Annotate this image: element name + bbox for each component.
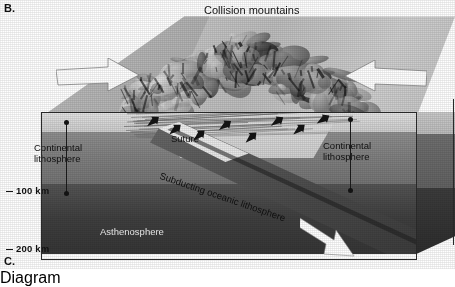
label-continental-lithosphere-right-line1: Continental [323,140,371,151]
label-asthenosphere: Asthenosphere [100,226,164,237]
block-edge-left [41,113,42,260]
block-edge-bottom [41,259,417,260]
label-suture: Suture [171,133,199,144]
measure-cap-top [348,117,353,122]
panel-label-b: B. [4,2,15,14]
plate-convergence-arrow-left [56,58,140,96]
plate-convergence-arrow-right [345,60,427,98]
block-edge-back-right [453,99,454,245]
depth-label-200km: 200 km [16,243,49,254]
label-continental-lithosphere-right-line2: lithosphere [323,151,369,162]
depth-label-100km: 100 km [16,185,49,196]
subduction-direction-arrow [300,214,362,264]
measure-cap-bottom [348,188,353,193]
block-edge-top-front [41,112,417,113]
depth-tick-100km [6,191,13,192]
block-edge-front-right [416,112,417,260]
measure-cap-bottom [64,191,69,196]
block-diagram [0,14,455,260]
measure-cap-top [64,120,69,125]
depth-tick-200km [6,249,13,250]
figure-title: Collision mountains [204,5,299,16]
